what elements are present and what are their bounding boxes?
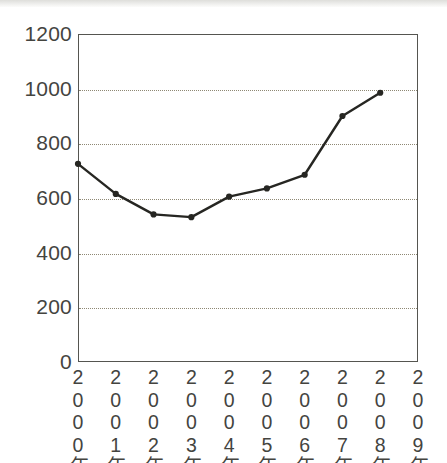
- x-tick-label-2003: 2003年: [181, 366, 201, 462]
- y-tick-label-1200: 1200: [0, 23, 72, 44]
- x-tick-label-2001: 2001年: [106, 366, 126, 462]
- x-tick-label-2009: 2009年: [408, 366, 428, 462]
- x-tick-label-2005: 2005年: [257, 366, 277, 462]
- x-tick-label-2002: 2002年: [144, 366, 164, 462]
- y-tick-label-400: 400: [0, 242, 72, 263]
- y-tick-label-1000: 1000: [0, 78, 72, 99]
- x-tick-label-2007: 2007年: [332, 366, 352, 462]
- y-axis: 020040060080010001200: [0, 34, 72, 362]
- y-tick-label-0: 0: [0, 351, 72, 372]
- gridline-800: [79, 144, 417, 145]
- gridline-200: [79, 308, 417, 309]
- y-tick-label-600: 600: [0, 187, 72, 208]
- plot-frame: [78, 34, 418, 362]
- x-axis: 2000年2001年2002年2003年2004年2005年2006年2007年…: [78, 366, 418, 463]
- x-tick-label-2006: 2006年: [295, 366, 315, 462]
- x-tick-label-2004: 2004年: [219, 366, 239, 462]
- x-tick-label-2000: 2000年: [68, 366, 88, 462]
- gridline-400: [79, 254, 417, 255]
- x-tick-label-2008: 2008年: [370, 366, 390, 462]
- gridline-600: [79, 199, 417, 200]
- gridline-1000: [79, 90, 417, 91]
- y-tick-label-200: 200: [0, 296, 72, 317]
- y-tick-label-800: 800: [0, 132, 72, 153]
- line-chart-figure: 020040060080010001200 2000年2001年2002年200…: [0, 0, 447, 463]
